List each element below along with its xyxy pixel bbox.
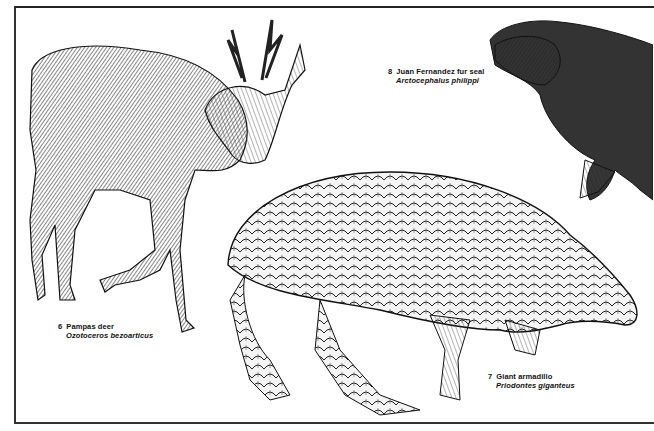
scientific-name: Arctocephalus philippi xyxy=(388,76,484,85)
scientific-name: Priodontes giganteus xyxy=(488,381,575,390)
scientific-name: Ozotoceros bezoarticus xyxy=(58,331,153,340)
common-name: Giant armadillo xyxy=(496,372,552,381)
label-fur-seal: 8Juan Fernandez fur seal Arctocephalus p… xyxy=(388,67,484,85)
animal-number: 6 xyxy=(58,322,62,331)
common-name: Juan Fernandez fur seal xyxy=(396,67,484,76)
animal-number: 7 xyxy=(488,372,492,381)
label-giant-armadillo: 7Giant armadillo Priodontes giganteus xyxy=(488,372,575,390)
animal-number: 8 xyxy=(388,67,392,76)
giant-armadillo-drawing xyxy=(228,172,637,415)
common-name: Pampas deer xyxy=(66,322,114,331)
fur-seal-drawing xyxy=(490,21,653,200)
label-pampas-deer: 6Pampas deer Ozotoceros bezoarticus xyxy=(58,322,153,340)
